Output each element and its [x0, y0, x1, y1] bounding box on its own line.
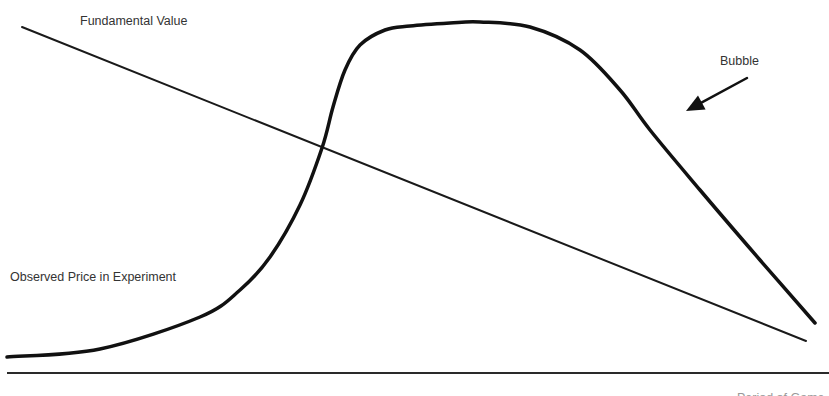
observed-price-curve — [7, 22, 815, 357]
observed-price-label: Observed Price in Experiment — [10, 271, 176, 284]
bubble-diagram — [0, 0, 829, 396]
x-axis-clipped-label: Period of Game — [737, 392, 825, 396]
bubble-arrow-icon — [686, 78, 747, 111]
fundamental-value-line — [22, 27, 806, 341]
bubble-label: Bubble — [720, 55, 759, 68]
fundamental-value-label: Fundamental Value — [80, 15, 187, 28]
